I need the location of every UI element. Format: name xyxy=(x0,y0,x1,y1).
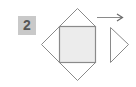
center-square xyxy=(60,27,96,63)
arrow-right-icon xyxy=(97,14,123,21)
net-diagram xyxy=(0,0,136,87)
left-triangle xyxy=(42,27,60,63)
detached-right-triangle xyxy=(111,28,129,63)
bottom-triangle xyxy=(60,63,96,81)
top-triangle xyxy=(60,9,96,27)
